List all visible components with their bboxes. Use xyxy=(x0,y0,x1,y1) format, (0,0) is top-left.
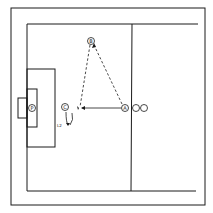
arrow-icon xyxy=(77,106,79,110)
pass-a-to-b xyxy=(94,45,122,104)
queue-player-icon xyxy=(141,105,148,112)
movements xyxy=(66,45,122,125)
pitch xyxy=(18,24,198,191)
goal xyxy=(18,98,27,118)
outer-frame xyxy=(11,8,205,205)
drill-diagram: P A B C L2 xyxy=(0,0,213,213)
player-a: A xyxy=(122,105,129,112)
arrow-icon xyxy=(81,106,85,110)
pass-b-to-c-area xyxy=(80,45,90,107)
shot-label: L2 xyxy=(57,123,62,128)
svg-text:P: P xyxy=(30,105,33,111)
player-b: B xyxy=(88,38,95,45)
halfway-line xyxy=(131,24,132,191)
svg-text:C: C xyxy=(63,104,67,110)
svg-text:A: A xyxy=(123,105,127,111)
queue-player-icon xyxy=(133,105,140,112)
player-c: C xyxy=(62,104,69,111)
player-goalkeeper: P xyxy=(29,105,36,112)
svg-text:B: B xyxy=(89,38,93,44)
arrowheads xyxy=(66,43,96,126)
arrow-icon xyxy=(66,123,70,126)
